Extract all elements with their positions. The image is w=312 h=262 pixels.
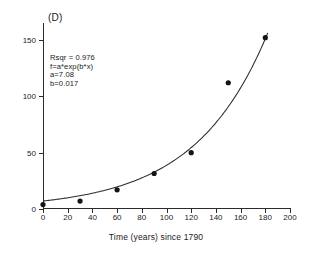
y-tick — [39, 209, 43, 210]
data-point — [226, 80, 231, 85]
data-point — [263, 35, 268, 40]
data-point — [77, 199, 82, 204]
y-tick — [39, 40, 43, 41]
plot-canvas — [0, 0, 312, 262]
data-point — [40, 202, 45, 207]
data-points — [40, 35, 268, 207]
data-point — [152, 171, 157, 176]
fitted-curve — [43, 33, 268, 201]
x-axis-title: Time (years) since 1790 — [0, 232, 312, 242]
y-tick — [39, 96, 43, 97]
y-tick — [39, 153, 43, 154]
data-point — [189, 150, 194, 155]
figure-panel-d: (D) Rsqr = 0.976 f=a*exp(b*x) a=7.08 b=0… — [0, 0, 312, 262]
data-point — [115, 187, 120, 192]
